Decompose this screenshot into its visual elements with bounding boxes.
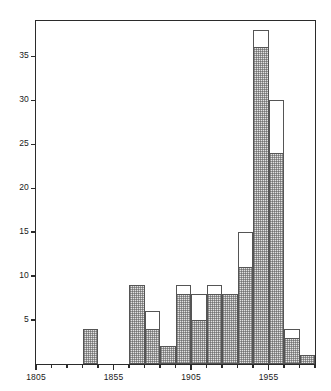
x-tick-mark (237, 364, 238, 368)
y-tick-mark (31, 100, 36, 101)
histogram-bar (269, 153, 285, 364)
plot-area: 51015202530351805185519051955 (35, 20, 316, 365)
x-tick-mark (113, 364, 114, 370)
y-tick-label: 15 (19, 226, 29, 237)
x-tick-mark (206, 364, 207, 368)
x-tick-label: 1855 (104, 372, 124, 383)
x-tick-mark (190, 364, 191, 370)
x-tick-mark (144, 364, 145, 368)
y-tick-label: 30 (19, 94, 29, 105)
histogram-bar (176, 294, 192, 364)
histogram-bar (145, 329, 161, 364)
x-tick-mark (314, 364, 315, 368)
x-tick-mark (159, 364, 160, 368)
histogram-chart: 51015202530351805185519051955 (0, 0, 331, 391)
histogram-bar (191, 320, 207, 364)
histogram-bar (300, 355, 316, 364)
x-tick-label: 1805 (26, 372, 46, 383)
x-tick-mark (175, 364, 176, 368)
x-tick-mark (66, 364, 67, 368)
x-tick-mark (252, 364, 253, 368)
x-tick-mark (51, 364, 52, 368)
histogram-bar (238, 267, 254, 364)
x-tick-mark (97, 364, 98, 368)
histogram-bar (160, 346, 176, 364)
y-tick-mark (31, 188, 36, 189)
x-tick-mark (128, 364, 129, 368)
histogram-bar (253, 47, 269, 364)
histogram-bar (284, 338, 300, 364)
histogram-bar (83, 329, 99, 364)
x-tick-mark (283, 364, 284, 368)
y-tick-mark (31, 319, 36, 320)
x-tick-label: 1905 (181, 372, 201, 383)
y-tick-label: 5 (24, 314, 29, 325)
y-tick-mark (31, 144, 36, 145)
histogram-bar (129, 285, 145, 364)
histogram-bar (222, 294, 238, 364)
histogram-bar (207, 294, 223, 364)
x-tick-mark (82, 364, 83, 368)
x-tick-mark (268, 364, 269, 370)
y-tick-mark (31, 275, 36, 276)
y-tick-label: 20 (19, 182, 29, 193)
x-tick-mark (221, 364, 222, 368)
x-tick-label: 1955 (259, 372, 279, 383)
plot-inner (36, 21, 315, 364)
y-tick-mark (31, 231, 36, 232)
x-tick-mark (35, 364, 36, 370)
y-tick-label: 35 (19, 50, 29, 61)
y-tick-label: 25 (19, 138, 29, 149)
y-tick-label: 10 (19, 270, 29, 281)
x-tick-mark (299, 364, 300, 368)
y-tick-mark (31, 56, 36, 57)
